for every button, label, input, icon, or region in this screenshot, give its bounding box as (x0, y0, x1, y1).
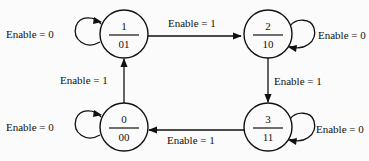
self-loop-label-3: Enable = 0 (316, 123, 364, 135)
state-1: 1 01 (100, 10, 148, 58)
state-circle-2 (244, 10, 292, 58)
state-number-2: 2 (265, 20, 271, 32)
state-output-1: 01 (119, 38, 130, 50)
state-number-3: 3 (265, 113, 271, 125)
loop-arrow-2 (289, 20, 315, 48)
state-diagram: Enable = 1 Enable = 1 Enable = 1 Enable … (0, 0, 369, 161)
state-circle-0 (100, 103, 148, 151)
state-output-2: 10 (263, 38, 275, 50)
self-loop-0: Enable = 0 (6, 110, 102, 138)
transition-2-to-3: Enable = 1 (268, 58, 322, 102)
state-number-1: 1 (121, 20, 127, 32)
transition-label-3-to-0: Enable = 1 (167, 134, 215, 146)
self-loop-3: Enable = 0 (288, 113, 364, 145)
transition-label-1-to-2: Enable = 1 (168, 17, 216, 29)
transition-label-0-to-1: Enable = 1 (60, 74, 108, 86)
loop-arrow-3 (289, 113, 315, 141)
transition-0-to-1: Enable = 1 (60, 59, 124, 103)
transition-label-2-to-3: Enable = 1 (274, 75, 322, 87)
state-circle-1 (100, 10, 148, 58)
state-output-3: 11 (263, 131, 274, 143)
state-output-0: 00 (119, 131, 131, 143)
transition-3-to-0: Enable = 1 (149, 130, 244, 146)
state-number-0: 0 (121, 113, 127, 125)
self-loop-label-1: Enable = 0 (6, 28, 54, 40)
self-loop-1: Enable = 0 (6, 17, 102, 45)
self-loop-label-2: Enable = 0 (318, 29, 366, 41)
state-circle-3 (244, 103, 292, 151)
transition-1-to-2: Enable = 1 (148, 17, 241, 36)
state-0: 0 00 (100, 103, 148, 151)
state-3: 3 11 (244, 103, 292, 151)
self-loop-2: Enable = 0 (288, 20, 366, 52)
self-loop-label-0: Enable = 0 (6, 121, 54, 133)
state-2: 2 10 (244, 10, 292, 58)
